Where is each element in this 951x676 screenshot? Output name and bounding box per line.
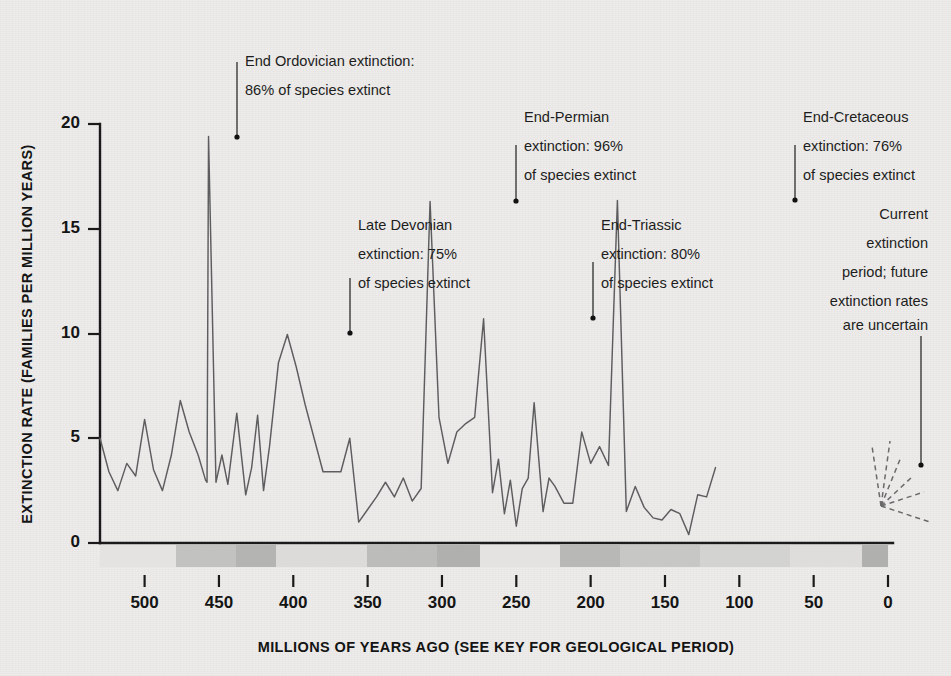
annotation-end-permian-line1: End-Permian <box>524 109 609 125</box>
x-tick-label-150: 150 <box>651 593 679 612</box>
y-tick-label-5: 5 <box>71 427 80 446</box>
geologic-period-band-3 <box>276 545 367 567</box>
y-tick-label-20: 20 <box>61 113 80 132</box>
geologic-period-band-6 <box>480 545 560 567</box>
x-axis-ticks: 500450400350300250200150100500 <box>130 575 892 612</box>
x-tick-label-200: 200 <box>576 593 604 612</box>
future-projection-branch-1 <box>872 446 881 506</box>
x-axis-title: MILLIONS OF YEARS AGO (SEE KEY FOR GEOLO… <box>258 639 735 655</box>
annotation-late-devonian-line1: Late Devonian <box>358 217 452 233</box>
annotation-end-triassic-line1: End-Triassic <box>601 217 682 233</box>
geologic-period-band-1 <box>176 545 236 567</box>
marker-end-permian <box>513 198 518 203</box>
y-tick-label-0: 0 <box>71 532 80 551</box>
x-tick-label-500: 500 <box>130 593 158 612</box>
marker-current-period <box>918 462 923 467</box>
extinction-rate-line-chart: 20 15 10 5 0 500450400350300250200150100… <box>0 0 951 676</box>
future-projection-branch-3 <box>881 457 901 506</box>
marker-end-ordovician <box>234 134 239 139</box>
annotation-layer: End Ordovician extinction: 86% of specie… <box>234 53 928 468</box>
annotation-late-devonian-line3: of species extinct <box>358 275 470 291</box>
x-tick-label-250: 250 <box>502 593 530 612</box>
x-tick-label-100: 100 <box>725 593 753 612</box>
marker-end-cretaceous <box>792 197 797 202</box>
x-tick-label-350: 350 <box>353 593 381 612</box>
future-projection-branch-6 <box>881 506 930 522</box>
future-projection-branch-4 <box>881 477 912 506</box>
annotation-current-line4: extinction rates <box>830 293 928 309</box>
geologic-period-band-8 <box>620 545 700 567</box>
annotation-current-line2: extinction <box>866 235 928 251</box>
annotation-end-cretaceous-line2: extinction: 76% <box>803 138 902 154</box>
annotation-end-triassic-line2: extinction: 80% <box>601 246 700 262</box>
extinction-rate-series <box>100 137 716 535</box>
geologic-period-band-2 <box>236 545 276 567</box>
geologic-period-band-11 <box>862 545 888 567</box>
annotation-end-cretaceous-line1: End-Cretaceous <box>803 109 908 125</box>
annotation-end-ordovician-line1: End Ordovician extinction: <box>245 53 415 69</box>
geologic-period-band-4 <box>367 545 437 567</box>
y-axis-ticks: 20 15 10 5 0 <box>61 113 100 551</box>
x-tick-label-0: 0 <box>883 593 892 612</box>
annotation-late-devonian-line2: extinction: 75% <box>358 246 457 262</box>
annotation-end-permian-line3: of species extinct <box>524 167 636 183</box>
x-tick-label-300: 300 <box>428 593 456 612</box>
geologic-period-band-7 <box>560 545 620 567</box>
annotation-end-ordovician-line2: 86% of species extinct <box>245 82 390 98</box>
y-tick-label-15: 15 <box>61 218 80 237</box>
annotation-current-line1: Current <box>879 206 928 222</box>
chart-canvas: 20 15 10 5 0 500450400350300250200150100… <box>0 0 951 676</box>
annotation-current-line5: are uncertain <box>843 317 928 333</box>
x-tick-label-50: 50 <box>804 593 823 612</box>
annotation-end-cretaceous-line3: of species extinct <box>803 167 915 183</box>
x-tick-label-400: 400 <box>279 593 307 612</box>
marker-late-devonian <box>347 330 352 335</box>
y-tick-label-10: 10 <box>61 323 80 342</box>
annotation-end-permian-line2: extinction: 96% <box>524 138 623 154</box>
x-tick-label-450: 450 <box>205 593 233 612</box>
annotation-end-triassic-line3: of species extinct <box>601 275 713 291</box>
annotation-current-line3: period; future <box>842 264 928 280</box>
y-axis-title: EXTINCTION RATE (FAMILIES PER MILLION YE… <box>19 144 35 524</box>
marker-end-triassic <box>590 315 595 320</box>
geologic-period-band-0 <box>100 545 176 567</box>
geologic-period-band-9 <box>700 545 790 567</box>
geologic-period-band-10 <box>790 545 862 567</box>
geologic-period-band-5 <box>437 545 480 567</box>
geologic-period-band-strip <box>100 545 888 567</box>
